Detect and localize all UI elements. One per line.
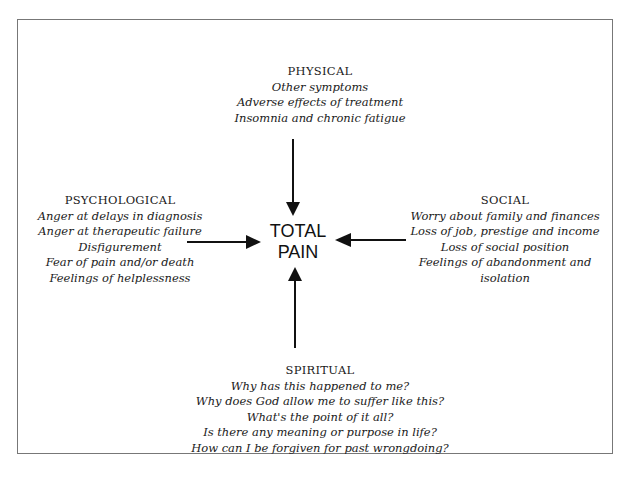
- arrows: [0, 0, 634, 479]
- arrow-right-icon: [187, 235, 261, 249]
- arrow-up-icon: [288, 267, 302, 348]
- arrow-left-icon: [335, 233, 406, 247]
- arrow-down-icon: [286, 139, 300, 216]
